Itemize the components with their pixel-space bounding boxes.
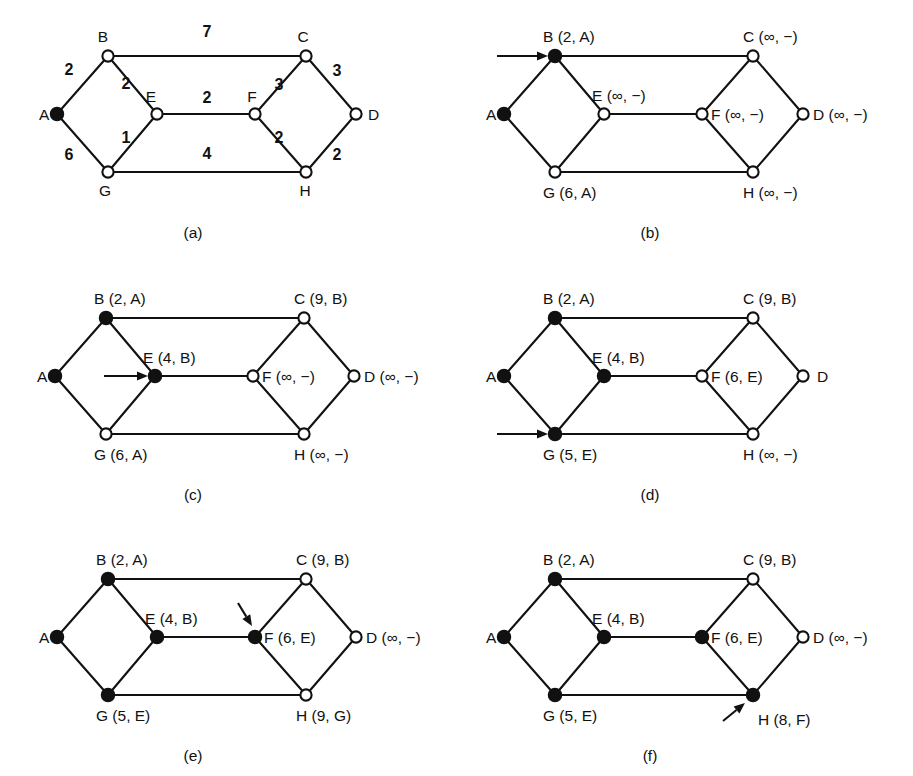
graph-node-H (747, 689, 759, 701)
panel-caption-f: (f) (643, 747, 658, 764)
edge-A-G (55, 376, 106, 434)
edge-weight-label: 4 (203, 145, 212, 162)
graph-node-C (747, 50, 758, 61)
node-label-G: G (5, E) (543, 707, 597, 724)
graph-node-D (797, 631, 808, 642)
node-label-D: D (∞, −) (364, 368, 419, 385)
node-label-F: F (6, E) (711, 368, 763, 385)
edge-weight-label: 6 (65, 146, 74, 163)
edge-E-G (555, 376, 604, 434)
graph-node-F (249, 631, 261, 643)
edge-A-B (57, 579, 108, 637)
edge-E-G (555, 114, 604, 172)
current-node-arrow (723, 703, 745, 721)
node-label-E: E (4, B) (592, 349, 645, 366)
edge-weight-label: 1 (122, 129, 131, 146)
node-label-B: B (2, A) (543, 290, 595, 307)
node-label-C: C (297, 28, 308, 45)
arrow-head (137, 371, 148, 380)
edge-B-E (106, 318, 155, 376)
node-label-G: G (99, 182, 111, 199)
panel-e: AB (2, A)E (4, B)G (5, E)F (6, E)C (9, B… (0, 523, 456, 776)
node-label-E: E (4, B) (143, 349, 196, 366)
graph-node-H (298, 428, 309, 439)
node-label-D: D (∞, −) (813, 629, 868, 646)
node-label-H: H (∞, −) (743, 184, 798, 201)
node-label-A: A (37, 368, 48, 385)
graph-node-H (747, 166, 758, 177)
current-node-arrow (497, 429, 548, 438)
graph-node-G (102, 166, 113, 177)
current-node-arrow (238, 603, 252, 626)
node-label-F: F (6, E) (711, 629, 763, 646)
edge-E-G (106, 376, 155, 434)
edge-E-G (555, 637, 604, 695)
graph-node-B (549, 312, 561, 324)
graph-node-D (797, 370, 808, 381)
node-label-A: A (486, 368, 497, 385)
edge-A-G (504, 376, 555, 434)
graph-f: AB (2, A)E (4, B)G (5, E)F (6, E)C (9, B… (447, 523, 903, 776)
graph-node-F (696, 370, 707, 381)
graph-node-F (696, 631, 708, 643)
edge-B-E (555, 318, 604, 376)
edge-weight-label: 3 (275, 76, 284, 93)
node-label-A: A (486, 106, 497, 123)
graph-node-A (51, 108, 63, 120)
panel-caption-c: (c) (184, 486, 202, 503)
graph-c: AB (2, A)E (4, B)G (6, A)F (∞, −)C (9, B… (0, 262, 454, 520)
node-label-D: D (∞, −) (366, 629, 421, 646)
node-label-C: C (∞, −) (743, 28, 798, 45)
node-label-F: F (6, E) (264, 629, 316, 646)
edge-weight-label: 2 (65, 61, 74, 78)
graph-node-H (747, 428, 758, 439)
arrow-head (242, 614, 252, 626)
graph-node-D (350, 108, 361, 119)
graph-node-F (696, 108, 707, 119)
graph-node-A (51, 631, 63, 643)
graph-node-E (598, 631, 610, 643)
node-label-C: C (9, B) (743, 290, 796, 307)
node-label-H: H (∞, −) (743, 446, 798, 463)
node-label-H: H (∞, −) (294, 446, 349, 463)
panel-d: AB (2, A)E (4, B)G (5, E)F (6, E)C (9, B… (447, 262, 903, 520)
edge-A-G (504, 114, 555, 172)
edge-C-D (306, 56, 356, 114)
node-label-A: A (39, 629, 50, 646)
edge-weight-label: 2 (122, 75, 131, 92)
arrow-shaft (723, 710, 736, 721)
graph-node-B (549, 573, 561, 585)
current-node-arrow (497, 51, 548, 60)
edge-A-B (504, 579, 555, 637)
edge-A-G (504, 637, 555, 695)
edge-weight-label: 2 (275, 129, 284, 146)
graph-node-A (498, 108, 510, 120)
edge-H-D (306, 114, 356, 172)
graph-node-A (498, 631, 510, 643)
graph-node-C (300, 573, 311, 584)
node-label-D: D (368, 106, 379, 123)
edge-E-G (108, 637, 157, 695)
graph-node-D (348, 370, 359, 381)
edge-B-E (555, 579, 604, 637)
graph-node-F (247, 370, 258, 381)
graph-node-F (249, 108, 260, 119)
edge-weight-label: 7 (203, 23, 212, 40)
node-label-G: G (5, E) (543, 446, 597, 463)
graph-node-E (149, 370, 161, 382)
node-label-E: E (∞, −) (592, 87, 646, 104)
graph-node-B (102, 50, 113, 61)
panel-b: AB (2, A)E (∞, −)G (6, A)F (∞, −)C (∞, −… (447, 0, 903, 258)
graph-node-G (549, 428, 561, 440)
graph-node-D (350, 631, 361, 642)
graph-node-B (100, 312, 112, 324)
graph-node-C (300, 50, 311, 61)
node-label-G: G (6, A) (94, 446, 147, 463)
node-label-B: B (2, A) (96, 551, 148, 568)
graph-node-C (747, 573, 758, 584)
node-label-B: B (98, 28, 108, 45)
node-label-G: G (5, E) (96, 707, 150, 724)
edge-A-B (55, 318, 106, 376)
node-group: AB (2, A)E (4, B)G (5, E)F (6, E)C (9, B… (486, 551, 868, 728)
node-label-D: D (817, 368, 828, 385)
